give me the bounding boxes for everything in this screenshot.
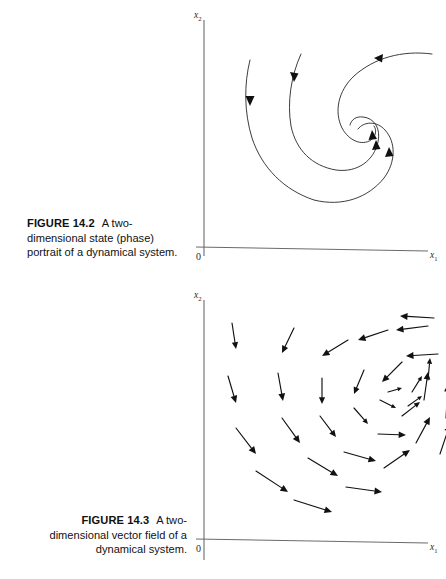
figure-14-2-plot: x2 x1 0 bbox=[188, 8, 446, 270]
origin-label-1: 0 bbox=[196, 251, 201, 262]
arrowhead-outer-end bbox=[385, 147, 394, 157]
vector-arrow-shaft bbox=[424, 379, 427, 400]
vector-arrow-head bbox=[231, 395, 237, 403]
vector-arrow-head bbox=[358, 334, 366, 341]
phase-trajectories bbox=[246, 53, 432, 202]
vector-arrow-shaft bbox=[354, 408, 364, 420]
vector-arrow-head bbox=[424, 372, 431, 380]
x-axis-label-1: x1 bbox=[429, 250, 438, 262]
vector-arrow-head bbox=[402, 450, 410, 457]
figure-14-2-caption: FIGURE 14.2A two-dimensional state (phas… bbox=[27, 216, 185, 260]
arrowhead-outer-top bbox=[246, 96, 255, 106]
vector-arrow-head bbox=[329, 430, 336, 437]
y-axis-label-1: x2 bbox=[193, 10, 202, 22]
vector-arrow-shaft bbox=[403, 326, 428, 329]
origin-label-2: 0 bbox=[196, 543, 201, 554]
vector-arrow-head bbox=[324, 506, 332, 513]
vector-arrow-head bbox=[400, 313, 408, 320]
trajectory-inner bbox=[338, 53, 432, 143]
vector-arrow-head bbox=[293, 435, 300, 443]
vector-arrow-shaft bbox=[388, 389, 398, 392]
vector-arrow-shaft bbox=[285, 328, 294, 347]
vector-arrow-shaft bbox=[357, 370, 364, 388]
vector-arrow-head bbox=[322, 349, 330, 356]
vector-arrow-shaft bbox=[236, 428, 251, 448]
vector-arrow-shaft bbox=[320, 416, 332, 432]
vector-arrow-shaft bbox=[416, 424, 426, 443]
trajectory-outer bbox=[246, 60, 393, 202]
vector-arrow-head bbox=[232, 342, 238, 349]
vector-arrow-head bbox=[278, 393, 285, 401]
x-axis-line-1 bbox=[196, 247, 428, 251]
vector-arrow-head bbox=[397, 387, 402, 391]
vector-arrow-shaft bbox=[387, 362, 402, 377]
arrowhead-inner-top bbox=[374, 54, 383, 63]
arrowhead-middle-end bbox=[372, 140, 381, 150]
vector-arrow-head bbox=[399, 431, 406, 438]
vector-arrow-shaft bbox=[440, 431, 446, 454]
figure-14-3-label: FIGURE 14.3 bbox=[81, 514, 149, 526]
vector-arrow-shaft bbox=[278, 373, 282, 394]
figure-14-2-label: FIGURE 14.2 bbox=[27, 217, 95, 229]
figure-14-3-caption: FIGURE 14.3A two-dimensional vector fiel… bbox=[27, 513, 187, 557]
vector-arrow-shaft bbox=[328, 340, 348, 352]
vector-arrow-shaft bbox=[344, 452, 369, 459]
vector-arrow-shaft bbox=[228, 376, 234, 396]
x-axis-label-2: x1 bbox=[429, 542, 438, 554]
vector-arrow-shaft bbox=[413, 354, 438, 356]
x-axis-line-2 bbox=[196, 539, 428, 543]
vector-arrow-head bbox=[319, 397, 325, 404]
vector-arrow-shaft bbox=[365, 330, 388, 338]
trajectory-arrowheads bbox=[246, 54, 394, 157]
vector-arrow-shaft bbox=[380, 400, 392, 406]
vector-arrow-shaft bbox=[282, 418, 296, 437]
vector-arrow-shaft bbox=[384, 454, 404, 468]
trajectory-middle bbox=[289, 54, 378, 170]
vector-arrow-head bbox=[427, 358, 432, 364]
vector-arrow-head bbox=[280, 485, 288, 492]
arrowhead-middle-top bbox=[290, 72, 299, 82]
vector-arrow-shaft bbox=[256, 471, 282, 488]
vector-arrow-shaft bbox=[378, 434, 399, 435]
vector-arrow-shaft bbox=[402, 406, 415, 416]
figure-14-3-plot: x2 x1 0 bbox=[188, 288, 446, 574]
vector-field-arrows bbox=[228, 313, 446, 513]
vector-arrow-shaft bbox=[407, 316, 434, 318]
vector-arrow-head bbox=[368, 456, 376, 463]
vector-arrow-shaft bbox=[308, 458, 332, 472]
vector-arrow-head bbox=[249, 446, 256, 454]
vector-arrow-head bbox=[330, 469, 338, 476]
vector-arrow-head bbox=[374, 488, 382, 495]
vector-arrow-head bbox=[396, 326, 404, 333]
vector-arrow-shaft bbox=[294, 500, 325, 510]
vector-arrow-head bbox=[406, 352, 414, 359]
vector-arrow-shaft bbox=[412, 380, 419, 392]
vector-arrow-shaft bbox=[346, 487, 375, 491]
y-axis-label-2: x2 bbox=[193, 290, 202, 302]
vector-arrow-shaft bbox=[232, 323, 235, 342]
